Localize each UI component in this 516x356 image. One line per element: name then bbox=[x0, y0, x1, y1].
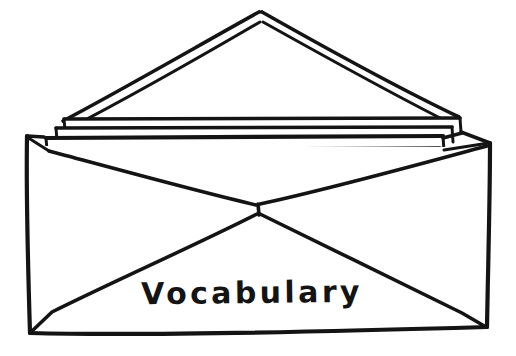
sheet-1-top-edge bbox=[46, 136, 443, 138]
envelope-line-drawing bbox=[0, 0, 516, 356]
sheet-2-top-edge bbox=[56, 127, 452, 128]
sheet-3-right-end bbox=[460, 118, 461, 132]
sheet-3-top-edge bbox=[64, 118, 460, 119]
envelope-body-fill bbox=[26, 137, 490, 333]
envelope-illustration: Vocabulary bbox=[0, 0, 516, 356]
